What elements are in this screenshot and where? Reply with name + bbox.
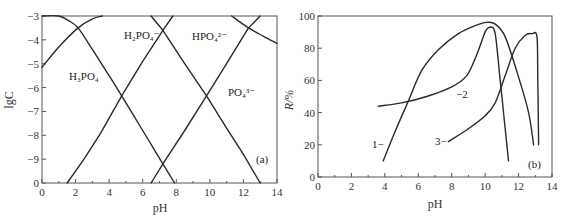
- y-tick-label: −6: [27, 82, 39, 94]
- chart-a-panel-label: (a): [256, 153, 269, 166]
- y-tick-label: −5: [27, 58, 39, 70]
- x-tick-label: 8: [449, 180, 455, 192]
- label-curve-3: 3−: [435, 135, 447, 147]
- label-po4: PO₄³⁻: [228, 86, 255, 98]
- chart-a-y-axis: −3−4−5−6−7−8−90: [27, 10, 46, 189]
- label-hpo4: HPO₄²⁻: [192, 30, 227, 42]
- chart-a-xlabel: pH: [153, 201, 168, 215]
- label-h2po4: H₂PO₄⁻: [124, 29, 160, 41]
- y-tick-label: 100: [299, 10, 316, 22]
- label-curve-1: 1−: [372, 138, 384, 150]
- x-tick-label: 4: [106, 186, 112, 198]
- x-tick-label: 0: [39, 186, 45, 198]
- x-tick-label: 2: [349, 180, 355, 192]
- chart-b-frame: [318, 16, 552, 177]
- chart-a-ylabel: lgC: [2, 91, 16, 108]
- figure: 02468101214 −3−4−5−6−7−8−90 pH lgC H₃PO₄…: [0, 0, 565, 220]
- x-tick-label: 10: [204, 186, 216, 198]
- chart-b-panel-label: (b): [528, 158, 541, 171]
- y-tick-label: −9: [27, 153, 39, 165]
- x-tick-label: 4: [382, 180, 388, 192]
- x-tick-label: 0: [315, 180, 321, 192]
- x-tick-label: 14: [272, 186, 284, 198]
- y-tick-label: −7: [27, 105, 39, 117]
- y-tick-label: 20: [304, 139, 316, 151]
- x-tick-label: 10: [480, 180, 492, 192]
- x-tick-label: 6: [416, 180, 422, 192]
- y-tick-label: −3: [27, 10, 39, 22]
- label-curve-2: −2: [456, 88, 468, 100]
- x-tick-label: 2: [73, 186, 79, 198]
- x-tick-label: 12: [238, 186, 249, 198]
- h2po4-rising-curve: [67, 16, 173, 183]
- chart-b-ylabel: R/%: [282, 90, 296, 112]
- chart-b-xlabel: pH: [428, 197, 443, 211]
- y-tick-label: 0: [34, 177, 40, 189]
- x-tick-label: 12: [513, 180, 524, 192]
- hpo4-cap-curve: [232, 16, 277, 43]
- y-tick-label: −4: [27, 34, 39, 46]
- x-tick-label: 14: [547, 180, 559, 192]
- chart-a-curves: [42, 16, 277, 183]
- x-tick-label: 6: [140, 186, 146, 198]
- chart-b: 02468101214 020406080100 pH R/% 1− −2 3−…: [282, 10, 558, 211]
- label-h3po4: H₃PO₄: [69, 70, 99, 82]
- y-tick-label: −8: [27, 129, 39, 141]
- y-tick-label: 0: [310, 171, 316, 183]
- y-tick-label: 60: [304, 74, 316, 86]
- y-tick-label: 40: [304, 107, 316, 119]
- chart-b-x-axis: 02468101214: [315, 173, 558, 192]
- chart-a: 02468101214 −3−4−5−6−7−8−90 pH lgC H₃PO₄…: [2, 10, 283, 215]
- h2po4-cap-curve: [42, 16, 102, 67]
- chart-a-x-axis: 02468101214: [39, 179, 283, 198]
- x-tick-label: 8: [174, 186, 180, 198]
- y-tick-label: 80: [304, 42, 316, 54]
